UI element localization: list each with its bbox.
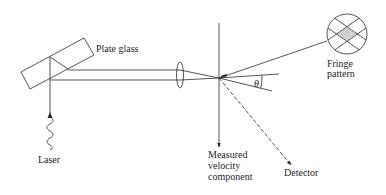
plate-glass-label: Plate glass bbox=[96, 43, 139, 54]
convex-lens-icon bbox=[177, 62, 184, 88]
theta-label: θ bbox=[254, 78, 259, 89]
plate-glass-outline bbox=[21, 38, 94, 89]
laser bbox=[47, 57, 53, 150]
theta-angle-arc bbox=[261, 75, 262, 88]
detector-label: Detector bbox=[284, 167, 319, 178]
fringe-scatter-line bbox=[219, 41, 327, 78]
laser-label: Laser bbox=[38, 154, 61, 165]
transmitted-beam-lower bbox=[219, 78, 272, 91]
internal-reflection-line bbox=[50, 57, 68, 69]
fringe-label-line2: pattern bbox=[327, 68, 355, 79]
measured-velocity-label: Measured velocity component bbox=[208, 149, 253, 182]
arrow-up-icon bbox=[48, 112, 53, 118]
measured-label-line2: velocity bbox=[208, 160, 240, 171]
fringe-line bbox=[319, 22, 368, 56]
wavy-light-icon bbox=[47, 116, 53, 150]
measured-label-line3: component bbox=[208, 171, 253, 182]
converging-beam-lower bbox=[180, 78, 219, 80]
plate-glass bbox=[21, 38, 94, 89]
fringe-center-shade bbox=[338, 28, 357, 41]
ldv-diagram: Plate glass Laser θ Measured velocity co… bbox=[0, 0, 386, 195]
fringe-pattern bbox=[319, 12, 375, 56]
fringe-line bbox=[326, 12, 375, 46]
fringe-line bbox=[326, 22, 375, 56]
measured-label-line1: Measured bbox=[208, 149, 247, 160]
converging-beam-upper bbox=[180, 70, 219, 78]
